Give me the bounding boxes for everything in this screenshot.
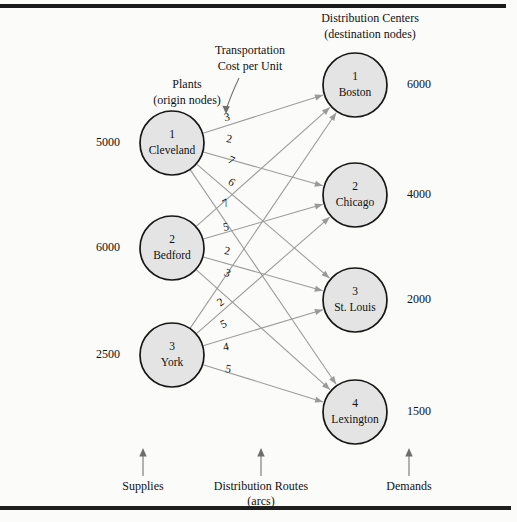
arc-york-to-chicago bbox=[196, 217, 329, 334]
node-index: 3 bbox=[352, 285, 358, 297]
node-name: Bedford bbox=[153, 249, 191, 261]
arrowhead-lexington bbox=[329, 376, 336, 384]
cost-label-york-chicago: 5 bbox=[218, 317, 229, 330]
node-lexington[interactable]: 4Lexington bbox=[323, 380, 387, 444]
supplies-arrowhead bbox=[139, 448, 146, 457]
arc-york-to-boston bbox=[190, 113, 336, 328]
cost-annotation-line1: Transportation bbox=[215, 43, 285, 57]
node-name: Lexington bbox=[331, 413, 379, 426]
cost-label-cleveland-stlouis: 7 bbox=[226, 153, 237, 166]
cost-label-bedford-boston: 7 bbox=[220, 196, 231, 209]
supply-value-cleveland: 5000 bbox=[96, 135, 120, 149]
footer-demands-label: Demands bbox=[386, 479, 432, 493]
node-cleveland[interactable]: 1Cleveland bbox=[140, 111, 204, 175]
node-index: 4 bbox=[352, 397, 358, 409]
node-boston[interactable]: 1Boston bbox=[323, 53, 387, 117]
plants-caption-line1: Plants bbox=[172, 77, 202, 91]
cost-label-york-stlouis: 4 bbox=[222, 340, 230, 353]
distribution-caption-line2: (destination nodes) bbox=[324, 27, 416, 41]
demand-value-lexington: 1500 bbox=[407, 404, 431, 418]
arc-bedford-to-stlouis bbox=[203, 257, 323, 291]
node-york[interactable]: 3York bbox=[140, 323, 204, 387]
arrowhead-chicago bbox=[314, 204, 323, 210]
node-layer: 1Cleveland2Bedford3York1Boston2Chicago3S… bbox=[140, 53, 387, 444]
diagram-page: 1Cleveland2Bedford3York1Boston2Chicago3S… bbox=[0, 0, 517, 522]
arrowhead-chicago bbox=[314, 181, 323, 187]
cost-annotation-line2: Cost per Unit bbox=[218, 59, 283, 73]
node-name: Chicago bbox=[336, 196, 375, 209]
cost-label-cleveland-chicago: 2 bbox=[225, 132, 233, 145]
node-index: 1 bbox=[352, 70, 358, 82]
network-diagram: 1Cleveland2Bedford3York1Boston2Chicago3S… bbox=[0, 0, 517, 522]
node-name: St. Louis bbox=[334, 301, 376, 313]
arrowhead-stlouis bbox=[314, 309, 323, 315]
demand-value-boston: 6000 bbox=[407, 77, 431, 91]
footer-routes-label-line2: (arcs) bbox=[247, 494, 274, 508]
node-stlouis[interactable]: 3St. Louis bbox=[323, 268, 387, 332]
cost-label-bedford-lexington: 3 bbox=[222, 266, 233, 279]
distribution-caption-line1: Distribution Centers bbox=[321, 11, 419, 25]
supply-value-bedford: 6000 bbox=[96, 240, 120, 254]
supply-value-york: 2500 bbox=[96, 347, 120, 361]
cost-annotation-pointer bbox=[226, 78, 239, 110]
arc-cleveland-to-lexington bbox=[190, 170, 336, 384]
arrowhead-stlouis bbox=[314, 286, 323, 292]
node-name: Boston bbox=[339, 86, 372, 98]
arrowhead-boston bbox=[315, 95, 324, 101]
cost-layer: 327675232545 bbox=[214, 110, 237, 375]
routes-arrowhead bbox=[257, 448, 264, 457]
demand-value-chicago: 4000 bbox=[407, 187, 431, 201]
node-chicago[interactable]: 2Chicago bbox=[323, 163, 387, 227]
arrowhead-lexington bbox=[314, 397, 323, 403]
node-index: 2 bbox=[352, 180, 358, 192]
cost-label-bedford-stlouis: 2 bbox=[223, 244, 231, 257]
footer-routes-label-line1: Distribution Routes bbox=[214, 479, 309, 493]
footer-supplies-label: Supplies bbox=[122, 479, 164, 493]
arc-layer bbox=[190, 95, 336, 403]
cost-label-cleveland-lexington: 6 bbox=[226, 175, 238, 188]
arc-york-to-lexington bbox=[203, 365, 323, 402]
cost-label-york-boston: 2 bbox=[214, 295, 226, 308]
arrowhead-boston bbox=[329, 113, 336, 121]
demand-value-stlouis: 2000 bbox=[407, 292, 431, 306]
node-index: 3 bbox=[169, 340, 175, 352]
node-index: 1 bbox=[169, 128, 175, 140]
node-bedford[interactable]: 2Bedford bbox=[140, 216, 204, 280]
node-name: York bbox=[161, 356, 184, 368]
arc-cleveland-to-chicago bbox=[203, 152, 323, 186]
node-index: 2 bbox=[169, 233, 175, 245]
demands-arrowhead bbox=[405, 448, 412, 457]
arc-cleveland-to-boston bbox=[203, 95, 323, 133]
plants-caption-line2: (origin nodes) bbox=[153, 93, 221, 107]
node-name: Cleveland bbox=[149, 144, 196, 156]
